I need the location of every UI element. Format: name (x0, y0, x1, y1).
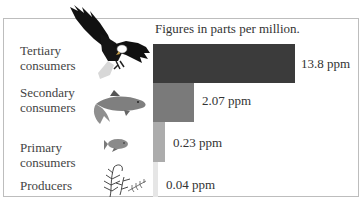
small-fish-icon (104, 136, 130, 154)
label-secondary-consumers: Secondary consumers (20, 85, 76, 115)
label-line1: Producers (20, 178, 72, 193)
label-primary-consumers: Primary consumers (20, 140, 76, 170)
bar-secondary-consumers (153, 83, 194, 122)
value-secondary-consumers: 2.07 ppm (202, 93, 251, 109)
chart-caption: Figures in parts per million. (155, 21, 300, 37)
value-primary-consumers: 0.23 ppm (173, 135, 222, 151)
label-line1: Secondary (20, 85, 76, 100)
bar-producers (153, 162, 158, 197)
eagle-icon (64, 3, 154, 83)
bar-primary-consumers (153, 122, 165, 162)
label-line2: consumers (20, 155, 76, 170)
bar-tertiary-consumers (153, 44, 295, 83)
plant-icon (98, 161, 150, 197)
label-producers: Producers (20, 178, 72, 193)
value-tertiary-consumers: 13.8 ppm (301, 56, 350, 72)
trout-icon (90, 86, 150, 134)
label-line1: Primary (20, 140, 76, 155)
label-line2: consumers (20, 100, 76, 115)
value-producers: 0.04 ppm (166, 177, 215, 193)
